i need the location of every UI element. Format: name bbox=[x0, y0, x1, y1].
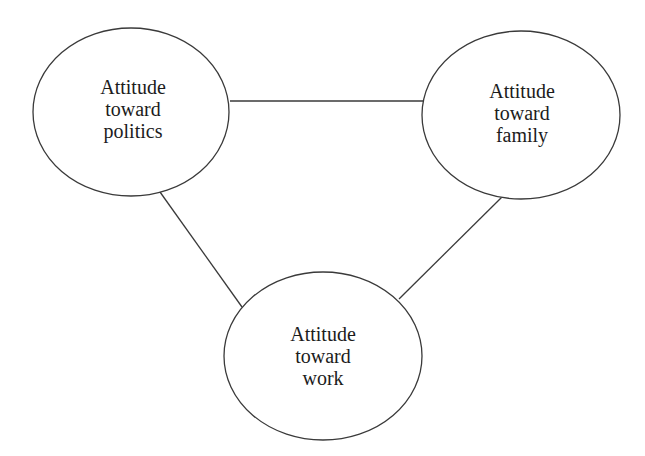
node-label-line: toward bbox=[290, 345, 356, 367]
node-label-line: Attitude bbox=[489, 80, 555, 102]
node-work-label: Attitude toward work bbox=[290, 323, 356, 389]
node-label-line: family bbox=[489, 124, 555, 146]
node-label-line: toward bbox=[489, 102, 555, 124]
node-politics-label: Attitude toward politics bbox=[100, 76, 166, 142]
node-label-line: Attitude bbox=[100, 76, 166, 98]
edge-politics-work bbox=[160, 192, 242, 307]
node-label-line: Attitude bbox=[290, 323, 356, 345]
node-label-line: toward bbox=[100, 98, 166, 120]
edge-family-work bbox=[399, 197, 502, 299]
node-label-line: politics bbox=[100, 120, 166, 142]
node-label-line: work bbox=[290, 367, 356, 389]
attitude-network-diagram: Attitude toward politics Attitude toward… bbox=[0, 0, 645, 456]
node-family-label: Attitude toward family bbox=[489, 80, 555, 146]
